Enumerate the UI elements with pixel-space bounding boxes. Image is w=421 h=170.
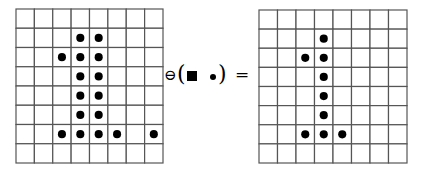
input-grid-cell xyxy=(108,48,126,67)
structuring-element-origin-square-icon xyxy=(187,71,197,81)
output-grid-cell xyxy=(389,67,408,86)
output-grid-cell xyxy=(333,48,352,67)
input-grid-cell xyxy=(16,9,34,28)
input-grid-pixel-dot xyxy=(113,130,121,138)
input-grid-cell xyxy=(34,144,52,163)
input-grid-svg xyxy=(16,9,163,163)
input-grid-cell xyxy=(108,86,126,105)
input-grid-pixel-dot xyxy=(76,53,84,61)
input-grid-cell xyxy=(145,28,163,47)
input-grid-cell xyxy=(34,67,52,86)
input-grid-cell xyxy=(145,48,163,67)
output-grid-cell xyxy=(389,29,408,48)
output-grid-cell xyxy=(315,10,334,29)
input-grid-pixel-dot xyxy=(95,130,103,138)
output-grid-pixel-dot xyxy=(320,111,328,119)
input-grid-pixel-dot xyxy=(95,34,103,42)
output-grid-pixel-dot xyxy=(338,130,346,138)
input-grid-pixel-dot xyxy=(76,130,84,138)
input-grid-cell xyxy=(108,9,126,28)
input-grid-cell xyxy=(90,9,108,28)
input-grid-cell xyxy=(126,28,144,47)
output-grid-cell xyxy=(333,10,352,29)
output-grid-cell xyxy=(278,10,297,29)
output-grid-cell xyxy=(259,10,278,29)
equals-sign: = xyxy=(235,66,249,83)
output-grid-cell xyxy=(370,48,389,67)
output-grid-cell xyxy=(259,87,278,106)
output-grid-cell xyxy=(296,106,315,125)
output-grid-cell xyxy=(278,29,297,48)
output-grid-cell xyxy=(278,125,297,144)
output-grid-cell xyxy=(352,87,371,106)
output-grid-cell xyxy=(389,87,408,106)
input-grid-cell xyxy=(145,9,163,28)
input-grid-cell xyxy=(16,105,34,124)
input-grid-cell xyxy=(126,86,144,105)
output-grid-cell xyxy=(352,10,371,29)
output-grid-cell xyxy=(333,87,352,106)
input-grid-cell xyxy=(16,67,34,86)
input-grid-cell xyxy=(34,28,52,47)
input-grid-cell xyxy=(53,105,71,124)
output-grid-cell xyxy=(278,87,297,106)
input-grid-cell xyxy=(16,86,34,105)
input-grid-cell xyxy=(34,86,52,105)
input-grid-pixel-dot xyxy=(150,130,158,138)
output-grid-cell xyxy=(370,67,389,86)
output-grid-cell xyxy=(259,29,278,48)
output-grid-cell xyxy=(278,67,297,86)
output-grid-cell xyxy=(333,29,352,48)
input-grid-pixel-dot xyxy=(95,53,103,61)
output-grid-cell xyxy=(352,29,371,48)
output-grid-cell xyxy=(389,48,408,67)
output-grid-cell xyxy=(333,106,352,125)
input-grid-cell xyxy=(71,9,89,28)
input-grid-cell xyxy=(126,125,144,144)
input-grid-cell xyxy=(145,144,163,163)
output-grid-cell xyxy=(333,67,352,86)
output-grid-cell xyxy=(352,144,371,163)
input-grid-cell xyxy=(34,105,52,124)
output-grid-cell xyxy=(389,144,408,163)
output-grid-cell xyxy=(296,144,315,163)
input-grid-cell xyxy=(126,48,144,67)
output-grid-cell xyxy=(259,106,278,125)
output-grid-pixel-dot xyxy=(301,54,309,62)
input-grid-cell xyxy=(108,105,126,124)
output-grid-cell xyxy=(278,106,297,125)
output-grid xyxy=(259,10,407,163)
input-grid-cell xyxy=(53,67,71,86)
erosion-operator-symbol: ⊖ xyxy=(164,68,177,83)
input-grid-cell xyxy=(16,28,34,47)
output-grid-cell xyxy=(389,10,408,29)
output-grid-cell xyxy=(370,125,389,144)
input-grid-pixel-dot xyxy=(76,92,84,100)
input-grid-cell xyxy=(126,67,144,86)
output-grid-pixel-dot xyxy=(320,73,328,81)
input-grid-cell xyxy=(145,67,163,86)
output-grid-cell xyxy=(278,48,297,67)
output-grid-svg xyxy=(259,10,407,163)
input-grid-cell xyxy=(16,125,34,144)
output-grid-cell xyxy=(296,10,315,29)
input-grid-cell xyxy=(108,67,126,86)
output-grid-cell xyxy=(296,67,315,86)
output-grid-cell xyxy=(370,106,389,125)
input-grid-pixel-dot xyxy=(58,130,66,138)
output-grid-cell xyxy=(259,125,278,144)
input-grid-pixel-dot xyxy=(76,111,84,119)
output-grid-pixel-dot xyxy=(320,54,328,62)
input-grid-pixel-dot xyxy=(76,72,84,80)
output-grid-cell xyxy=(352,48,371,67)
input-grid-cell xyxy=(34,9,52,28)
input-grid-cell xyxy=(126,144,144,163)
input-grid-cell xyxy=(53,9,71,28)
output-grid-cell xyxy=(352,67,371,86)
input-grid-cell xyxy=(126,9,144,28)
output-grid-cell xyxy=(259,144,278,163)
output-grid-cell xyxy=(370,29,389,48)
input-grid xyxy=(16,9,163,163)
output-grid-cell xyxy=(315,144,334,163)
output-grid-pixel-dot xyxy=(301,130,309,138)
